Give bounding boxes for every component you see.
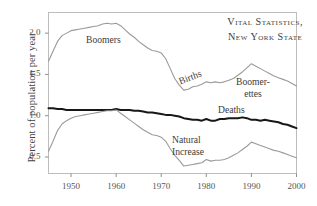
annotation-boomerettes-line-1: Boomer- [236, 76, 270, 88]
annotation-boomerettes-line-2: ettes [236, 88, 270, 100]
y-tick-label: 1.5 [15, 68, 41, 78]
y-tick-label: 2.0 [15, 27, 41, 37]
annotation-natural-increase-line-1: Natural [172, 134, 204, 146]
series-line-deaths [49, 108, 297, 128]
chart-title-line-2: New York State [227, 29, 303, 44]
annotation-boomers: Boomers [86, 34, 121, 45]
chart-figure: Percent of population per year 0.51.01.5… [0, 0, 316, 206]
x-tick-label: 1970 [141, 181, 181, 191]
x-tick-label: 1960 [96, 181, 136, 191]
annotation-natural-increase: Natural Increase [172, 134, 204, 157]
chart-title-line-1: Vital Statistics, [227, 14, 303, 29]
axis-ticks [45, 33, 297, 177]
annotation-boomerettes: Boomer- ettes [236, 76, 270, 99]
annotation-deaths: Deaths [218, 104, 245, 115]
x-tick-label: 1990 [231, 181, 271, 191]
chart-title: Vital Statistics, New York State [227, 14, 303, 44]
x-tick-label: 1950 [51, 181, 91, 191]
annotation-natural-increase-line-2: Increase [172, 146, 204, 158]
y-tick-label: 1.0 [15, 110, 41, 120]
x-tick-label: 1980 [186, 181, 226, 191]
x-tick-label: 2000 [277, 181, 317, 191]
y-tick-label: 0.5 [15, 151, 41, 161]
